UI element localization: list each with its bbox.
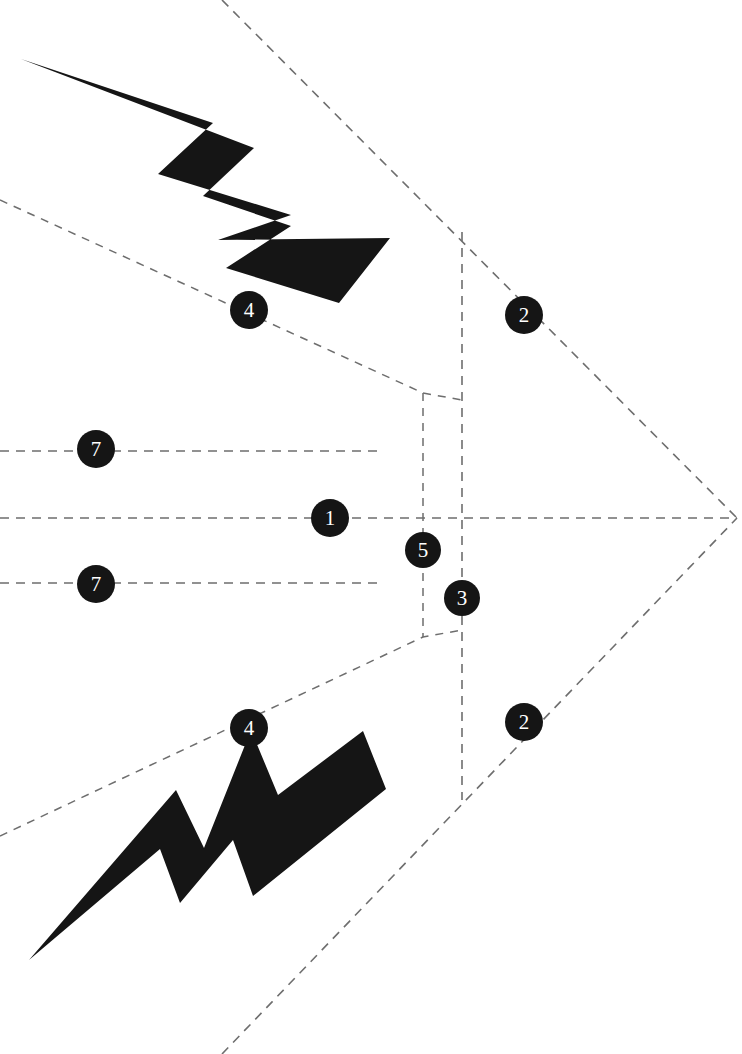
callout-5[interactable]: 5 (405, 532, 441, 568)
callout-4-lower[interactable]: 4 (230, 709, 268, 747)
callout-7-lower[interactable]: 7 (77, 565, 115, 603)
upper-taper-diagonal (0, 200, 462, 400)
callout-3[interactable]: 3 (444, 580, 480, 616)
lightning-bolt-lower (29, 730, 386, 960)
diagram-canvas: 427175342 (0, 0, 742, 1054)
callout-2-lower[interactable]: 2 (505, 703, 543, 741)
construction-lines-layer (0, 0, 742, 1054)
callout-2-upper[interactable]: 2 (505, 296, 543, 334)
callout-4-upper[interactable]: 4 (230, 291, 268, 329)
callout-1-center[interactable]: 1 (311, 499, 349, 537)
lightning-bolt-upper (21, 59, 390, 303)
callout-7-upper[interactable]: 7 (77, 430, 115, 468)
